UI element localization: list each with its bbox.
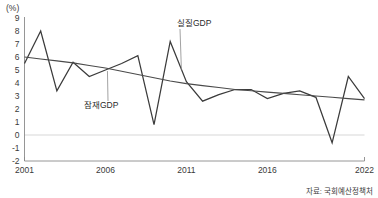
x-tick-label: 2022 [355, 165, 374, 175]
leader-line-potential-gdp [107, 71, 108, 101]
y-tick-label: 4 [15, 78, 20, 88]
y-tick-label: 3 [15, 91, 20, 101]
y-tick-label: 6 [15, 52, 20, 62]
x-axis-tick-labels: 20012006201120162022 [15, 165, 374, 175]
y-tick-label: -1 [12, 143, 20, 153]
y-axis-tick-labels: 9876543210-1-2 [12, 13, 20, 166]
x-tick-label: 2006 [96, 165, 115, 175]
series-line-real-gdp [25, 31, 365, 143]
chart-series-lines [25, 31, 365, 143]
y-tick-label: 5 [15, 65, 20, 75]
gdp-growth-chart-figure: (%) 9876543210-1-2 20012006201120162022 … [0, 0, 378, 198]
series-label-real-gdp: 실질GDP [177, 18, 212, 28]
y-tick-label: 0 [15, 130, 20, 140]
x-tick-label: 2001 [15, 165, 34, 175]
y-tick-label: 2 [15, 104, 20, 114]
source-attribution: 자료: 국회예산정책처 [306, 185, 373, 196]
series-line-potential-gdp [25, 57, 365, 100]
chart-axes [25, 17, 365, 161]
chart-plot-area: 9876543210-1-2 20012006201120162022 실질GD… [0, 0, 378, 198]
y-tick-label: 9 [15, 13, 20, 23]
y-tick-label: 8 [15, 26, 20, 36]
x-tick-label: 2011 [177, 165, 196, 175]
series-label-potential-gdp: 잠재GDP [84, 100, 119, 110]
leader-line-real-gdp [180, 29, 181, 70]
x-tick-label: 2016 [258, 165, 277, 175]
y-tick-label: 7 [15, 39, 20, 49]
y-tick-label: 1 [15, 117, 20, 127]
